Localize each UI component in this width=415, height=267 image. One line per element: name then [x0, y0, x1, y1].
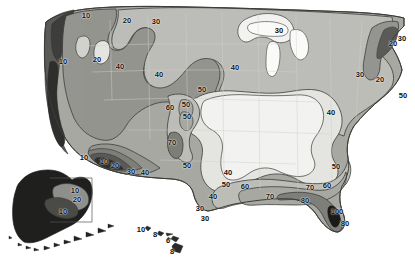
contour-label-south-florida: 80 — [341, 220, 349, 228]
contour-label-colorado-west: 60 — [166, 104, 174, 112]
contour-label-alaska-interior-south: 20 — [73, 196, 81, 204]
contour-label-hawaii-maui: 6 — [166, 237, 170, 245]
contour-label-georgia-south: 60 — [323, 182, 331, 190]
contour-label-maine: 20 — [389, 40, 397, 48]
contour-label-north-texas: 40 — [224, 169, 232, 177]
contour-label-carolinas: 50 — [332, 163, 340, 171]
contour-label-idaho: 20 — [93, 56, 101, 64]
contour-label-new-york: 30 — [356, 71, 364, 79]
contour-label-new-mexico-high: 70 — [168, 139, 176, 147]
contour-label-pacific-northwest: 10 — [82, 12, 90, 20]
contour-label-florida-panhandle: 80 — [301, 197, 309, 205]
contour-label-central-plains: 50 — [198, 86, 206, 94]
contour-label-east-texas: 60 — [241, 183, 249, 191]
contour-label-colorado-core-upper: 50 — [182, 101, 190, 109]
contour-map-figure: 1020303030201020404040302050605050504070… — [0, 0, 415, 267]
contour-label-new-mexico-south: 40 — [141, 169, 149, 177]
contour-label-hawaii-oahu: 8 — [153, 231, 157, 239]
contour-label-florida-peninsula-core: 100 — [331, 208, 344, 216]
contour-label-hawaii-big-island: 8 — [170, 248, 174, 256]
contour-label-rio-grande-valley: 30 — [196, 205, 204, 213]
map-canvas — [0, 0, 415, 267]
contour-label-central-texas: 50 — [222, 181, 230, 189]
contour-label-mid-atlantic: 40 — [327, 109, 335, 117]
contour-label-gulf-coast-louisiana: 70 — [266, 193, 274, 201]
hawaii-island-kauai — [145, 226, 151, 231]
contour-label-arizona-west: 20 — [111, 162, 119, 170]
conus-contour-bands — [44, 6, 404, 232]
contour-label-hawaii-kauai: 10 — [137, 226, 145, 234]
contour-label-wyoming: 40 — [116, 63, 124, 71]
contour-label-arizona-south: 30 — [127, 168, 135, 176]
contour-label-northern-plains: 30 — [152, 18, 160, 26]
contour-label-canada-edge-east: 30 — [398, 35, 406, 43]
contour-label-alaska-interior-north: 10 — [71, 187, 79, 195]
contour-label-atlantic-offshore: 50 — [399, 92, 407, 100]
contour-label-upper-midwest: 40 — [231, 64, 239, 72]
contour-label-northern-rockies: 20 — [123, 17, 131, 25]
hawaii-inset — [145, 226, 183, 253]
contour-label-southern-new-england: 20 — [376, 76, 384, 84]
contour-label-south-texas: 40 — [209, 193, 217, 201]
contour-label-nebraska: 40 — [155, 71, 163, 79]
contour-label-colorado-core-lower: 50 — [183, 113, 191, 121]
contour-label-southern-california: 10 — [80, 154, 88, 162]
contour-label-mexico-border-inset: 30 — [201, 215, 209, 223]
contour-label-oregon: 10 — [59, 58, 67, 66]
contour-label-lower-colorado-river: 10 — [100, 158, 108, 166]
contour-label-great-lakes-north: 30 — [275, 27, 283, 35]
hawaii-island-oahu — [157, 231, 164, 236]
contour-label-alaska-southwest: 10 — [59, 208, 67, 216]
hawaii-island-maui — [171, 236, 179, 242]
contour-label-texas-panhandle: 50 — [183, 162, 191, 170]
contour-label-gulf-coast-alabama: 70 — [306, 184, 314, 192]
